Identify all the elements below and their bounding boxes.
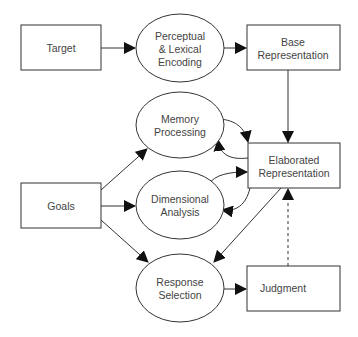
node-label: Processing bbox=[154, 126, 206, 138]
node-label: Encoding bbox=[158, 56, 202, 68]
node-response-selection: Response Selection bbox=[136, 254, 224, 322]
node-label: Dimensional bbox=[151, 193, 209, 205]
node-label: Analysis bbox=[160, 206, 199, 218]
node-target: Target bbox=[21, 25, 101, 70]
node-label: Selection bbox=[158, 289, 201, 301]
node-label: Target bbox=[46, 42, 75, 54]
edge-goals-to-memory bbox=[101, 149, 147, 190]
edge-elaborated-to-dimensional bbox=[222, 188, 250, 210]
node-label: Elaborated bbox=[269, 154, 320, 166]
node-label: Base bbox=[281, 36, 305, 48]
edge-goals-to-response bbox=[101, 220, 148, 262]
node-label: Representation bbox=[257, 49, 328, 61]
node-label: Judgment bbox=[260, 282, 306, 294]
node-base-representation: Base Representation bbox=[247, 25, 340, 70]
edge-elaborated-to-memory bbox=[218, 140, 248, 158]
node-dimensional-analysis: Dimensional Analysis bbox=[136, 171, 224, 239]
flow-diagram: Target Perceptual & Lexical Encoding Bas… bbox=[0, 0, 358, 337]
node-label: Goals bbox=[47, 200, 74, 212]
node-label: Response bbox=[156, 276, 203, 288]
node-label: Memory bbox=[161, 113, 200, 125]
node-label: & Lexical bbox=[159, 43, 202, 55]
node-goals: Goals bbox=[21, 183, 101, 228]
node-label: Perceptual bbox=[155, 30, 205, 42]
node-elaborated-representation: Elaborated Representation bbox=[248, 143, 340, 188]
node-perceptual-encoding: Perceptual & Lexical Encoding bbox=[136, 14, 224, 82]
node-judgment: Judgment bbox=[247, 266, 340, 311]
node-memory-processing: Memory Processing bbox=[136, 92, 224, 158]
edge-elaborated-to-response bbox=[214, 188, 281, 262]
node-label: Representation bbox=[258, 167, 329, 179]
